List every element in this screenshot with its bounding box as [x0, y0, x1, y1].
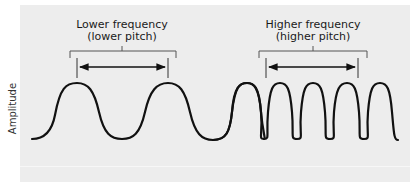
high-frequency-wavelength-arrow: [266, 58, 358, 78]
wave-diagram: [0, 0, 410, 191]
low-frequency-wavelength-arrow: [77, 58, 168, 78]
high-frequency-bracket: [259, 46, 367, 58]
low-frequency-bracket: [70, 46, 176, 58]
sound-wave-high-frequency: [213, 83, 398, 140]
sound-wave: [32, 83, 265, 140]
